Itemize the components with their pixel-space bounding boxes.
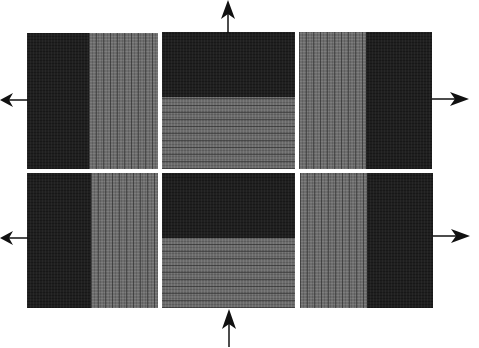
swatch-top-left [27, 33, 158, 169]
swatch-top-middle [162, 32, 295, 169]
swatch-light-region [91, 173, 158, 308]
swatch-dark-region [27, 173, 91, 308]
arrow-up-bottom-icon [219, 309, 239, 348]
swatch-bottom-left [27, 173, 158, 308]
swatch-dark-region [162, 32, 295, 97]
swatch-dark-region [27, 33, 89, 169]
arrow-left-top-icon [0, 90, 28, 110]
swatch-dark-region [366, 32, 432, 169]
swatch-top-right [299, 32, 432, 169]
swatch-bottom-middle [162, 173, 295, 308]
swatch-bottom-right [300, 173, 433, 308]
swatch-light-region [299, 32, 366, 169]
swatch-light-region [300, 173, 367, 308]
arrow-left-bottom-icon [0, 228, 28, 248]
arrow-up-top-icon [218, 0, 238, 34]
arrow-right-top-icon [432, 89, 470, 109]
swatch-light-region [89, 33, 158, 169]
swatch-dark-region [367, 173, 433, 308]
swatch-light-region [162, 238, 295, 308]
swatch-light-region [162, 97, 295, 169]
arrow-right-bottom-icon [433, 226, 471, 246]
swatch-dark-region [162, 173, 295, 238]
